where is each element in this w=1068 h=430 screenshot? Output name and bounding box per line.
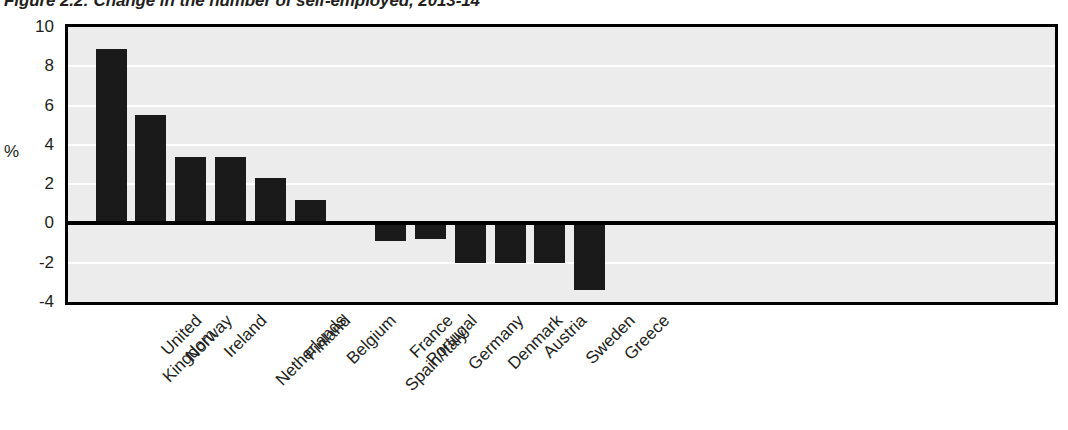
- bar: [495, 223, 526, 262]
- bar: [574, 223, 605, 290]
- bar: [375, 223, 406, 241]
- y-axis-tick-label: -4: [39, 292, 54, 312]
- bar: [215, 157, 246, 224]
- bar: [255, 178, 286, 223]
- x-axis-category-label: Belgium: [342, 311, 400, 369]
- bar: [534, 223, 565, 262]
- zero-baseline: [68, 221, 1055, 225]
- bar: [415, 223, 446, 239]
- figure-title: Figure 2.2: Change in the number of self…: [4, 0, 480, 11]
- y-axis-tick-label: 2: [45, 174, 54, 194]
- bar-series: [68, 27, 1055, 302]
- x-axis-category-labels: UnitedKingdomNorwayIrelandNetherlandsFin…: [65, 305, 1058, 430]
- y-axis-tick-label: -2: [39, 253, 54, 273]
- figure-root: Figure 2.2: Change in the number of self…: [0, 0, 1068, 430]
- bar: [455, 223, 486, 262]
- y-axis-tick-label: 4: [45, 135, 54, 155]
- x-axis-category-label-line1: Belgium: [342, 311, 399, 368]
- y-axis-tick-label: 8: [45, 56, 54, 76]
- y-axis-tick-labels: 1086420-2-4: [0, 0, 62, 430]
- y-axis-tick-label: 10: [35, 17, 54, 37]
- y-axis-tick-label: 6: [45, 96, 54, 116]
- bar: [295, 200, 326, 224]
- y-axis-tick-label: 0: [45, 213, 54, 233]
- bar: [175, 157, 206, 224]
- bar: [135, 115, 166, 223]
- bar: [96, 49, 127, 224]
- plot-area: [65, 24, 1058, 305]
